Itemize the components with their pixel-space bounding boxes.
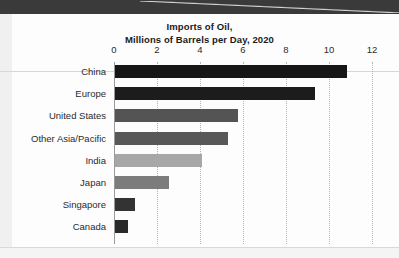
bar-chart: Imports of Oil, Millions of Barrels per … [0, 14, 399, 247]
bar [115, 198, 135, 211]
bar [115, 132, 228, 145]
category-label: Japan [80, 176, 106, 189]
category-label: Europe [75, 87, 106, 100]
category-label: Singapore [63, 198, 106, 211]
gridline-10 [329, 62, 331, 244]
category-label: China [81, 65, 106, 78]
bar [115, 220, 128, 233]
x-tick-label: 6 [240, 44, 245, 55]
bar [115, 154, 202, 167]
bar [115, 109, 238, 122]
category-label: United States [49, 109, 106, 122]
gridline-12 [372, 62, 374, 244]
x-tick-label: 8 [283, 44, 288, 55]
page-bottom-margin [0, 247, 399, 258]
x-tick-label: 2 [154, 44, 159, 55]
bar [115, 65, 347, 78]
x-tick-label: 4 [197, 44, 202, 55]
bar [115, 176, 169, 189]
page-band-light-streak [140, 1, 399, 13]
category-label: Other Asia/Pacific [31, 132, 106, 145]
category-label: India [85, 154, 106, 167]
chart-title: Imports of Oil, Millions of Barrels per … [0, 21, 399, 46]
category-label: Canada [73, 220, 106, 233]
page-top-dark-band [0, 0, 399, 14]
x-tick-label: 12 [367, 44, 378, 55]
x-tick-label: 10 [324, 44, 335, 55]
y-axis-category-labels: ChinaEuropeUnited StatesOther Asia/Pacif… [0, 62, 110, 244]
bar [115, 87, 315, 100]
chart-title-line-1: Imports of Oil, [0, 21, 399, 34]
x-tick-label: 0 [111, 44, 116, 55]
